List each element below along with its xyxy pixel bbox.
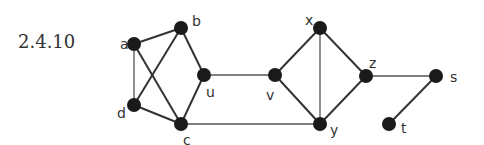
node-b bbox=[174, 21, 188, 35]
edge-s-t bbox=[389, 76, 436, 124]
edge-x-z bbox=[320, 28, 366, 76]
node-label-x: x bbox=[305, 12, 313, 28]
node-label-v: v bbox=[266, 87, 274, 103]
node-a bbox=[127, 37, 141, 51]
edge-z-y bbox=[320, 76, 366, 124]
node-z bbox=[359, 69, 373, 83]
graph-diagram: 2.4.10 abudcvxzyst bbox=[0, 0, 484, 145]
node-t bbox=[382, 117, 396, 131]
node-label-y: y bbox=[330, 122, 338, 138]
node-d bbox=[127, 98, 141, 112]
node-label-c: c bbox=[183, 132, 191, 145]
figure-label: 2.4.10 bbox=[18, 31, 75, 52]
edge-v-x bbox=[275, 28, 320, 75]
edge-b-u bbox=[181, 28, 204, 75]
node-label-z: z bbox=[369, 55, 376, 71]
edge-u-c bbox=[181, 75, 204, 124]
node-u bbox=[197, 68, 211, 82]
edge-b-d bbox=[134, 28, 181, 105]
node-y bbox=[313, 117, 327, 131]
node-label-u: u bbox=[206, 84, 215, 100]
edge-d-c bbox=[134, 105, 181, 124]
edge-a-b bbox=[134, 28, 181, 44]
node-v bbox=[268, 68, 282, 82]
node-c bbox=[174, 117, 188, 131]
node-label-t: t bbox=[401, 120, 407, 136]
node-label-d: d bbox=[117, 105, 126, 121]
node-label-b: b bbox=[192, 13, 201, 29]
node-s bbox=[429, 69, 443, 83]
node-label-a: a bbox=[120, 36, 129, 52]
edges bbox=[134, 28, 436, 124]
edge-a-c bbox=[134, 44, 181, 124]
edge-v-y bbox=[275, 75, 320, 124]
node-label-s: s bbox=[450, 69, 457, 85]
node-x bbox=[313, 21, 327, 35]
